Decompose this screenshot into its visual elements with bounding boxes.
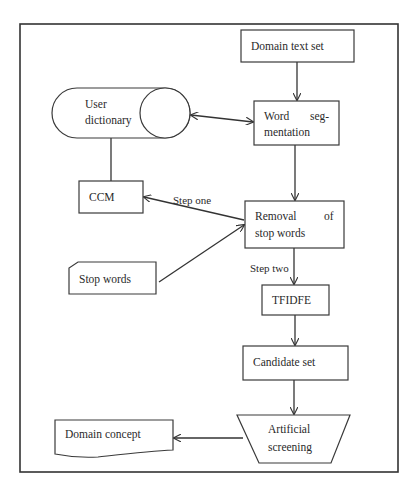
node-removal-label-1b: of	[324, 210, 334, 222]
node-artificial-screening-label-2: screening	[268, 441, 312, 454]
node-word-seg-label-1b: seg-	[310, 110, 329, 123]
edge-label-step-two: Step two	[250, 262, 289, 274]
node-word-segmentation: Word seg- mentation	[254, 101, 339, 145]
node-user-dictionary: User dictionary	[52, 88, 190, 138]
edge-label-step-one: Step one	[173, 194, 211, 206]
node-artificial-screening: Artificial screening	[237, 415, 350, 463]
edge-user-dict-word-seg	[191, 115, 253, 122]
node-removal-stop-words: Removal of stop words	[245, 201, 344, 248]
node-user-dictionary-label-1: User	[85, 98, 107, 110]
flowchart-canvas: Step one Step two Domain text set User d…	[0, 0, 418, 497]
node-user-dictionary-label-2: dictionary	[85, 114, 132, 127]
node-candidate-set-label: Candidate set	[253, 356, 316, 368]
node-stop-words: Stop words	[69, 262, 156, 294]
node-removal-label-2: stop words	[255, 227, 306, 240]
node-artificial-screening-label-1: Artificial	[268, 423, 310, 435]
edge-stop-words-to-removal	[159, 225, 244, 282]
node-domain-concept: Domain concept	[55, 420, 173, 457]
node-ccm-label: CCM	[89, 191, 115, 203]
node-domain-text-set: Domain text set	[241, 30, 354, 62]
node-removal-label-1a: Removal	[255, 210, 297, 222]
node-word-seg-label-1a: Word	[264, 110, 290, 122]
node-tfidfe-label: TFIDFE	[272, 294, 311, 306]
node-word-seg-label-2: mentation	[264, 126, 310, 138]
node-domain-text-set-label: Domain text set	[251, 40, 325, 52]
node-ccm: CCM	[79, 181, 143, 213]
node-domain-concept-label: Domain concept	[65, 428, 141, 441]
node-tfidfe: TFIDFE	[262, 285, 329, 315]
node-candidate-set: Candidate set	[243, 346, 348, 380]
node-stop-words-label: Stop words	[79, 273, 132, 286]
